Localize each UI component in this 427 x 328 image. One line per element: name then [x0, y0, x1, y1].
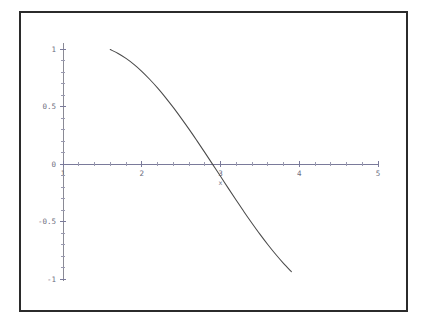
y-tick-label: -0.5 [38, 217, 56, 226]
data-curve-0 [110, 50, 291, 272]
x-tick-label: 1 [61, 169, 66, 178]
y-tick-label: 0.5 [42, 102, 56, 111]
x-tick-label: 4 [297, 169, 302, 178]
y-tick-label: 0 [51, 160, 56, 169]
figure-root: 12345-1-0.500.51x [0, 0, 427, 328]
plot-canvas: 12345-1-0.500.51x [21, 13, 406, 310]
y-tick-label: -1 [47, 275, 56, 284]
x-tick-label: 5 [376, 169, 381, 178]
y-tick-label: 1 [51, 45, 56, 54]
x-tick-label: 2 [139, 169, 144, 178]
plot-frame: 12345-1-0.500.51x [19, 11, 408, 312]
x-axis-label: x [219, 179, 223, 187]
